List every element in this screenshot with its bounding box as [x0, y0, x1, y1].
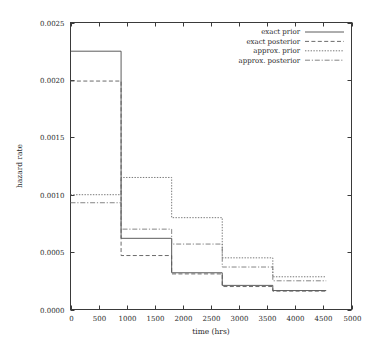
x-tick-label: 4500: [315, 315, 333, 323]
x-axis-ticks: [72, 23, 353, 310]
series-line-approx-prior: [71, 177, 327, 276]
x-tick-label: 3000: [231, 315, 249, 323]
y-tick-label: 0.0025: [40, 20, 65, 28]
x-tick-label: 0: [69, 315, 73, 323]
x-tick-label: 2000: [175, 315, 193, 323]
y-tick-label: 0.0010: [40, 192, 65, 200]
legend-label-approx-prior: approx. prior: [253, 47, 300, 55]
series-line-exact-posterior: [71, 81, 327, 291]
y-tick-label: 0.0020: [40, 77, 65, 85]
x-tick-label: 1000: [119, 315, 137, 323]
chart-canvas: 0500100015002000250030003500400045005000…: [0, 0, 378, 351]
x-tick-label: 4000: [287, 315, 305, 323]
y-tick-label: 0.0000: [40, 307, 65, 315]
legend-label-approx-posterior: approx. posterior: [239, 57, 301, 65]
series-line-exact-prior: [71, 51, 327, 290]
hazard-rate-chart: 0500100015002000250030003500400045005000…: [0, 0, 378, 351]
y-tick-label: 0.0015: [40, 134, 65, 142]
plot-frame: [71, 23, 352, 310]
x-axis-title: time (hrs): [192, 327, 230, 336]
x-tick-label: 500: [93, 315, 106, 323]
y-tick-label: 0.0005: [40, 249, 65, 257]
series-line-approx-posterior: [71, 203, 327, 281]
y-axis-tick-labels: 0.00000.00050.00100.00150.00200.0025: [40, 20, 65, 315]
y-axis-ticks: [71, 24, 352, 311]
x-axis-tick-labels: 0500100015002000250030003500400045005000: [69, 315, 361, 323]
x-tick-label: 2500: [203, 315, 221, 323]
legend-label-exact-posterior: exact posterior: [246, 38, 300, 46]
x-tick-label: 3500: [259, 315, 277, 323]
x-tick-label: 5000: [344, 315, 362, 323]
y-axis-title: hazard rate: [15, 143, 24, 188]
legend-label-exact-prior: exact prior: [261, 28, 301, 36]
data-series-group: [71, 51, 327, 291]
x-tick-label: 1500: [147, 315, 165, 323]
chart-legend: exact priorexact posteriorapprox. priora…: [239, 28, 344, 64]
